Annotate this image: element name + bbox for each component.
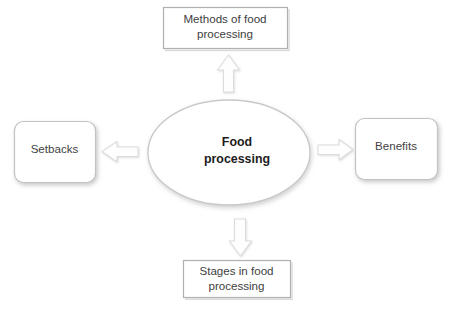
diagram-graphics: [0, 0, 450, 309]
diagram-canvas: Methods of food processing Stages in foo…: [0, 0, 450, 309]
arrow-down: [230, 219, 252, 256]
node-methods-shape[interactable]: [164, 8, 290, 52]
node-benefits-shape[interactable]: [356, 119, 438, 180]
node-setbacks-shape[interactable]: [15, 122, 96, 183]
arrow-right: [318, 140, 353, 161]
node-center-shape[interactable]: [148, 100, 310, 205]
node-stages-shape[interactable]: [184, 261, 293, 301]
arrow-up: [218, 55, 240, 92]
arrow-left: [102, 142, 138, 163]
